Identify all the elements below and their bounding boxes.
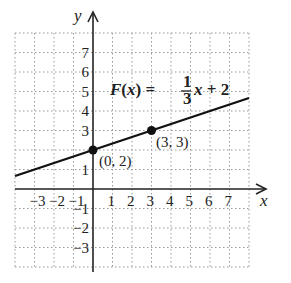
- svg-text:2: 2: [127, 193, 135, 209]
- point-label-3-3: (3, 3): [156, 134, 189, 151]
- svg-text:1: 1: [108, 193, 116, 209]
- fraction-denominator: 3: [183, 89, 192, 108]
- svg-text:4: 4: [166, 193, 174, 209]
- svg-text:−3: −3: [73, 240, 89, 256]
- svg-text:−2: −2: [73, 220, 89, 236]
- graph: x y −3−2−11234567 765431−1−2−3 (0, 2) (3…: [0, 0, 291, 283]
- svg-text:7: 7: [225, 193, 233, 209]
- svg-text:3: 3: [82, 123, 90, 139]
- svg-text:−1: −1: [73, 201, 89, 217]
- point-3-3: [147, 126, 156, 135]
- svg-text:6: 6: [205, 193, 213, 209]
- svg-text:F(x) =: F(x) =: [109, 80, 155, 99]
- y-axis-label: y: [72, 6, 82, 25]
- equation-label: F(x) = 1 3 x + 2: [109, 72, 229, 108]
- point-label-0-2: (0, 2): [99, 153, 132, 170]
- svg-text:1: 1: [82, 162, 90, 178]
- svg-text:−3: −3: [30, 193, 46, 209]
- svg-text:4: 4: [82, 103, 90, 119]
- point-0-2: [89, 146, 98, 155]
- grid: [15, 33, 249, 267]
- svg-text:7: 7: [82, 45, 90, 61]
- svg-text:−2: −2: [49, 193, 65, 209]
- svg-text:3: 3: [147, 193, 155, 209]
- svg-text:5: 5: [186, 193, 194, 209]
- svg-text:x + 2: x + 2: [193, 80, 229, 99]
- x-tick-labels: −3−2−11234567: [30, 193, 233, 209]
- x-axis-label: x: [259, 191, 268, 210]
- svg-text:6: 6: [82, 64, 90, 80]
- svg-text:5: 5: [82, 84, 90, 100]
